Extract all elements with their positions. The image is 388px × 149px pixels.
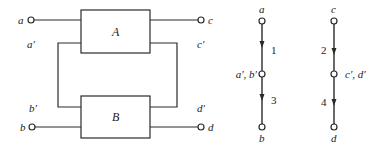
box-b-label: B [112,110,120,124]
circuit: A B a a′ b′ b c c′ d′ d [18,10,214,138]
node-middle-label: a′, b′ [236,68,258,80]
node-c-icon [331,18,337,24]
terminal-b-icon [29,124,35,130]
terminal-d-icon [198,124,204,130]
graph-left: a a′, b′ b 1 3 [236,3,277,144]
node-top-label: c [331,3,336,15]
box-a-label: A [111,25,120,39]
node-bottom-label: b [259,132,265,144]
label-d: d [208,121,214,133]
arrow-down-icon [260,94,265,101]
node-b-icon [259,124,265,130]
node-bottom-label: d [331,132,337,144]
edge-1-label: 1 [271,44,277,56]
label-b-prime: b′ [29,102,38,114]
graph-right: c c′, d′ d 2 4 [321,3,366,144]
arrow-down-icon [332,48,337,55]
node-top-label: a [259,3,265,15]
label-d-prime: d′ [197,102,206,114]
wire-c-prime-d-prime [150,43,177,107]
node-a-icon [259,18,265,24]
edge-2-label: 2 [321,44,327,56]
label-a-prime: a′ [27,38,36,50]
edge-3-label: 3 [271,94,277,106]
terminal-c-icon [198,17,204,23]
label-a: a [18,14,24,26]
node-c-prime-d-prime-icon [331,71,337,77]
label-c-prime: c′ [197,38,205,50]
label-c: c [208,14,213,26]
edge-4-label: 4 [321,96,327,108]
label-b: b [20,121,26,133]
arrow-down-icon [332,99,337,106]
two-port-series-connection-diagram: A B a a′ b′ b c c′ d′ d a a′, b′ b 1 3 [0,0,388,149]
terminal-a-icon [28,17,34,23]
arrow-down-icon [260,41,265,48]
node-a-prime-b-prime-icon [259,71,265,77]
node-d-icon [331,124,337,130]
wire-a-prime-b-prime [58,43,81,107]
node-middle-label: c′, d′ [345,68,366,80]
